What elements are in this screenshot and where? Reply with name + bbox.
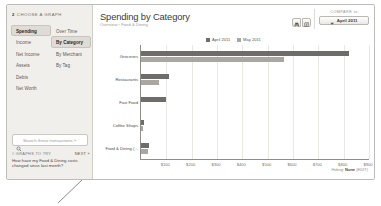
gridline <box>293 45 294 159</box>
legend-label-april: April 2011 <box>212 37 230 42</box>
graph-type-menu: Spending Income Net Income Assets Debts … <box>11 25 91 93</box>
bar[interactable] <box>141 143 149 148</box>
value-axis-tick: $300 <box>211 162 220 167</box>
gridline <box>268 45 269 159</box>
compare-control: COMPARE to April 2011 <box>314 9 369 29</box>
sidebar-step-header: 2CHOOSE A GRAPH <box>12 12 90 20</box>
sidebar-item-assets[interactable]: Assets <box>11 59 51 70</box>
bar[interactable] <box>141 149 148 154</box>
search-icon <box>16 138 22 144</box>
bar-chart: GroceriesRestaurantsFast FoodCoffee Shop… <box>93 45 374 165</box>
bar[interactable] <box>141 97 166 102</box>
gridline <box>166 45 167 159</box>
bar[interactable] <box>141 126 143 131</box>
sidebar-item-net-income[interactable]: Net Income <box>11 48 51 59</box>
category-axis-tick: Groceries <box>120 54 138 59</box>
chart-legend: April 2011 May 2011 <box>93 35 374 44</box>
search-transactions-box[interactable]: Search these transactions » <box>12 134 88 146</box>
search-input-placeholder[interactable]: Search these transactions » <box>23 135 85 147</box>
compare-period-value: April 2011 <box>337 18 358 23</box>
breadcrumb: Overview › Food & Dining <box>100 22 148 27</box>
app-window: 2CHOOSE A GRAPH Spending Income Net Inco… <box>6 4 375 180</box>
gridline <box>192 45 193 159</box>
annotation-pointer <box>56 180 84 204</box>
gridline <box>344 45 345 159</box>
legend-item-may[interactable]: May 2011 <box>237 37 260 42</box>
bar[interactable] <box>141 57 284 62</box>
sidebar: 2CHOOSE A GRAPH Spending Income Net Inco… <box>7 5 93 179</box>
page-title: Spending by Category <box>100 11 190 22</box>
graphs-to-try-suggestion[interactable]: How have my Food & Dining costs changed … <box>12 158 90 169</box>
print-button[interactable] <box>292 18 301 27</box>
graph-grouping-column: Over Time By Category By Merchant By Tag <box>51 25 91 93</box>
sidebar-item-over-time[interactable]: Over Time <box>51 25 91 36</box>
gridline <box>318 45 319 159</box>
value-axis-tick: $400 <box>237 162 246 167</box>
legend-swatch-may <box>237 38 241 42</box>
graphs-to-try-next-link[interactable]: NEXT » <box>75 151 90 156</box>
sidebar-item-income[interactable]: Income <box>11 36 51 47</box>
export-icon <box>304 13 310 31</box>
graphs-to-try-eyebrow: # GRAPHS TO TRY <box>12 151 51 156</box>
bar[interactable] <box>141 120 144 125</box>
hiding-value: None <box>345 167 355 172</box>
sidebar-item-debts[interactable]: Debts <box>11 71 51 82</box>
bar[interactable] <box>141 74 169 79</box>
main-content: Spending by Category Overview › Food & D… <box>93 5 374 179</box>
value-axis-tick: $100 <box>161 162 170 167</box>
sidebar-item-net-worth[interactable]: Net Worth <box>11 82 51 93</box>
legend-label-may: May 2011 <box>243 37 261 42</box>
hiding-label: Hiding: <box>332 167 344 172</box>
bar[interactable] <box>141 51 349 56</box>
category-axis-tick: Restaurants <box>115 77 138 82</box>
export-button[interactable] <box>302 18 311 27</box>
screenshot-root: 2CHOOSE A GRAPH Spending Income Net Inco… <box>0 0 381 206</box>
category-axis-tick: Coffee Shops <box>113 123 138 128</box>
sidebar-item-spending[interactable]: Spending <box>11 25 51 36</box>
category-axis-tick: Fast Food <box>119 100 138 105</box>
gridline <box>217 45 218 159</box>
sidebar-item-by-tag[interactable]: By Tag <box>51 59 91 70</box>
sidebar-step-label: CHOOSE A GRAPH <box>17 12 62 17</box>
gridline <box>369 45 370 159</box>
chevron-down-icon <box>330 11 334 29</box>
compare-period-dropdown[interactable]: April 2011 <box>319 16 369 26</box>
sidebar-step-number: 2 <box>12 12 15 17</box>
graphs-to-try-panel: # GRAPHS TO TRY NEXT » How have my Food … <box>12 151 90 168</box>
legend-item-april[interactable]: April 2011 <box>206 37 230 42</box>
value-axis-tick: $700 <box>313 162 322 167</box>
category-axis-tick: Food & Dining (... <box>105 146 138 151</box>
sidebar-item-by-category[interactable]: By Category <box>51 36 91 47</box>
value-axis-tick: $200 <box>186 162 195 167</box>
graphs-to-try-header: # GRAPHS TO TRY NEXT » <box>12 151 90 156</box>
value-axis-tick: $600 <box>287 162 296 167</box>
graph-metric-column: Spending Income Net Income Assets Debts … <box>11 25 51 93</box>
hiding-status: Hiding: None (EDIT) <box>332 167 368 172</box>
legend-swatch-april <box>206 38 210 42</box>
print-icon <box>294 13 300 31</box>
category-axis-labels: GroceriesRestaurantsFast FoodCoffee Shop… <box>93 45 140 160</box>
value-axis-tick: $500 <box>262 162 271 167</box>
gridline <box>242 45 243 159</box>
compare-label: COMPARE to <box>319 9 369 14</box>
bar[interactable] <box>141 80 159 85</box>
sidebar-item-by-merchant[interactable]: By Merchant <box>51 48 91 59</box>
hiding-edit-link[interactable]: (EDIT) <box>356 167 368 172</box>
plot-area <box>140 45 369 160</box>
export-button-group <box>292 18 311 27</box>
